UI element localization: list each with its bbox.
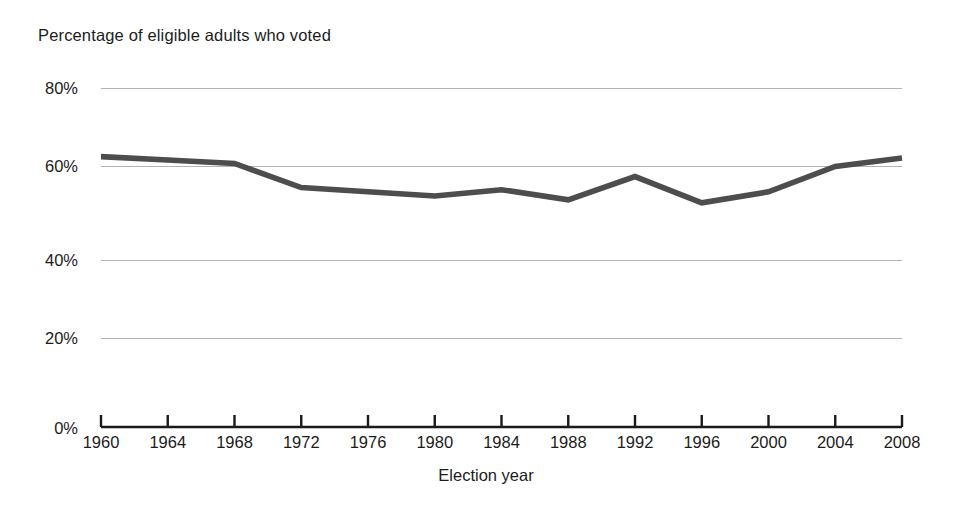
data-series-line bbox=[101, 88, 902, 427]
y-tick-label-80: 80% bbox=[10, 79, 78, 97]
x-tick-label-2008: 2008 bbox=[867, 432, 937, 452]
x-tick-label-1968: 1968 bbox=[200, 432, 270, 452]
x-tick-label-1996: 1996 bbox=[667, 432, 737, 452]
x-tick-label-1984: 1984 bbox=[467, 432, 537, 452]
x-tick-label-1960: 1960 bbox=[66, 432, 136, 452]
plot-area bbox=[101, 88, 902, 427]
x-axis-title: Election year bbox=[0, 466, 972, 485]
chart-figure: Percentage of eligible adults who voted … bbox=[0, 0, 972, 515]
x-tick-label-2004: 2004 bbox=[800, 432, 870, 452]
voter-turnout-line bbox=[101, 157, 902, 203]
x-tick-label-1972: 1972 bbox=[266, 432, 336, 452]
x-tick-label-1980: 1980 bbox=[400, 432, 470, 452]
chart-title: Percentage of eligible adults who voted bbox=[38, 25, 331, 45]
x-axis-line-and-ticks bbox=[101, 415, 902, 427]
x-tick-label-1976: 1976 bbox=[333, 432, 403, 452]
y-tick-label-20: 20% bbox=[10, 329, 78, 347]
y-tick-label-40: 40% bbox=[10, 251, 78, 269]
x-tick-label-2000: 2000 bbox=[734, 432, 804, 452]
x-tick-label-1988: 1988 bbox=[533, 432, 603, 452]
y-tick-label-60: 60% bbox=[10, 157, 78, 175]
x-tick-label-1992: 1992 bbox=[600, 432, 670, 452]
x-tick-label-1964: 1964 bbox=[133, 432, 203, 452]
